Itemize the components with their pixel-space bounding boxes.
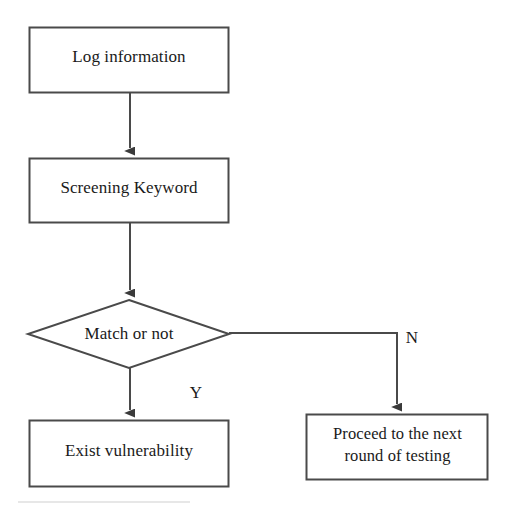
flowchart-diagram: Log information Screening Keyword Match … [0,0,510,511]
node-match-or-not [28,300,229,368]
scan-artifact-line [18,501,190,503]
edge-match-no [229,333,397,404]
node-proceed-next-round [307,415,488,480]
node-exist-vulnerability [30,421,229,487]
node-log-information [30,28,229,93]
node-screening-keyword [30,159,229,223]
flowchart-shapes-layer [0,0,510,511]
